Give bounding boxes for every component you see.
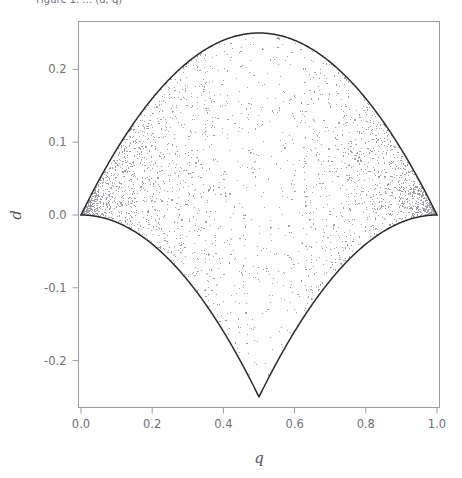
x-axis-tick-label: 1.0 [428,417,446,431]
y-axis-tick-label: 0.1 [48,135,66,149]
y-axis-tick-label: 0.0 [48,208,66,222]
y-axis-tick-label: 0.2 [48,62,66,76]
x-axis-tick-label: 0.6 [285,417,303,431]
x-axis: 0.00.20.40.60.81.0 [72,408,446,431]
x-axis-tick-label: 0.8 [357,417,375,431]
plot-canvas: 0.00.20.40.60.81.0 0.20.10.0-0.1-0.2 q d [0,0,462,478]
scatter-plot-figure: 0.00.20.40.60.81.0 0.20.10.0-0.1-0.2 q d [0,0,462,478]
plot-frame [79,22,440,408]
lower-boundary-curve [81,215,437,397]
x-axis-tick-label: 0.4 [214,417,232,431]
y-axis-title: d [7,210,25,220]
y-axis-tick-label: -0.1 [44,281,66,295]
scatter-points-layer [81,36,436,395]
y-axis-tick-label: -0.2 [44,354,66,368]
y-axis: 0.20.10.0-0.1-0.2 [44,62,78,367]
x-axis-tick-label: 0.2 [143,417,161,431]
x-axis-tick-label: 0.0 [72,417,90,431]
x-axis-title: q [254,449,264,467]
